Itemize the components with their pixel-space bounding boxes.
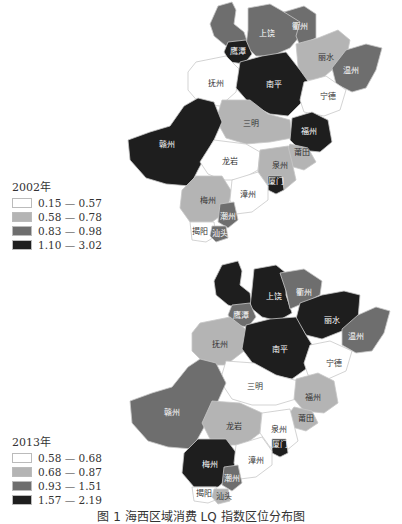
label-nanping: 南平 [272,344,288,354]
legend-row: 1.57 — 2.19 [12,493,102,507]
legend-range: 0.15 — 0.57 [38,197,102,209]
legend-swatch-class2 [12,467,32,477]
label-quzhou: 衢州 [292,21,308,31]
legend-range: 1.57 — 2.19 [38,494,102,506]
label-lishui: 丽水 [318,52,334,62]
legend-swatch-class4 [12,495,32,505]
legend-range: 0.83 — 0.98 [38,225,102,237]
label-ganzhou: 赣州 [159,139,175,149]
label-fuzhou-jx: 抚州 [212,339,228,349]
label-yingtan: 鹰潭 [233,310,249,320]
map-panel-2002: 上饶 衢州 鹰潭 丽水 温州 抚州 南平 宁德 三明 福州 赣州 龙岩 莆田 泉… [0,0,402,255]
legend-title: 2002年 [12,178,102,194]
label-meizhou: 梅州 [202,459,218,469]
label-putian: 莆田 [298,413,314,423]
label-quanzhou: 泉州 [271,424,287,434]
label-longyan: 龙岩 [226,421,242,431]
legend-swatch-class1 [12,198,32,208]
legend-2002: 2002年 0.15 — 0.57 0.58 — 0.78 0.83 — 0.9… [12,178,102,252]
legend-swatch-class3 [12,481,32,491]
legend-row: 0.58 — 0.78 [12,210,102,224]
label-shangrao: 上饶 [266,291,282,301]
label-sanming: 三明 [247,382,263,391]
label-quzhou: 衢州 [296,287,312,297]
label-nanping: 南平 [266,79,282,89]
label-shantou: 汕头 [212,228,228,238]
label-wenzhou: 温州 [348,332,364,341]
legend-row: 0.93 — 1.51 [12,479,102,493]
legend-row: 0.58 — 0.68 [12,451,102,465]
label-sanming: 三明 [243,119,259,128]
label-quanzhou: 泉州 [272,160,288,170]
label-fuzhou-fj: 福州 [301,127,317,136]
legend-row: 0.83 — 0.98 [12,224,102,238]
label-zhangzhou: 漳州 [248,455,264,465]
region-jingdezhen [214,261,252,309]
label-fuzhou-fj: 福州 [305,393,321,402]
legend-row: 0.15 — 0.57 [12,196,102,210]
label-chaozhou: 潮州 [224,473,240,483]
legend-range: 0.58 — 0.68 [38,452,102,464]
label-shantou: 汕头 [216,491,232,501]
label-xiamen: 厦门 [268,176,284,186]
label-jieyang: 揭阳 [192,226,208,236]
legend-swatch-class1 [12,453,32,463]
label-yingtan: 鹰潭 [230,46,246,56]
legend-2013: 2013年 0.58 — 0.68 0.68 — 0.87 0.93 — 1.5… [12,433,102,507]
label-chaozhou: 潮州 [220,211,236,221]
legend-range: 0.68 — 0.87 [38,466,102,478]
label-ningde: 宁德 [326,358,342,368]
legend-range: 1.10 — 3.02 [38,239,102,251]
label-wenzhou: 温州 [343,66,359,75]
legend-title: 2013年 [12,433,102,449]
map-panel-2013: 上饶 衢州 鹰潭 丽水 温州 抚州 南平 宁德 三明 福州 赣州 龙岩 莆田 泉… [0,255,402,505]
legend-row: 1.10 — 3.02 [12,238,102,252]
label-xiamen: 厦门 [272,439,288,449]
figure-caption: 图 1 海西区域消费 LQ 指数区位分布图 [0,507,402,524]
label-jieyang: 揭阳 [196,488,212,498]
legend-swatch-class2 [12,212,32,222]
label-ganzhou: 赣州 [164,407,180,417]
legend-row: 0.68 — 0.87 [12,465,102,479]
legend-range: 0.93 — 1.51 [38,480,102,492]
legend-swatch-class4 [12,240,32,250]
label-shangrao: 上饶 [259,28,275,38]
legend-range: 0.58 — 0.78 [38,211,102,223]
legend-swatch-class3 [12,226,32,236]
label-lishui: 丽水 [324,315,340,325]
label-fuzhou-jx: 抚州 [208,78,224,88]
label-putian: 莆田 [294,147,310,157]
label-meizhou: 梅州 [200,195,216,205]
label-longyan: 龙岩 [222,156,238,166]
label-zhangzhou: 漳州 [240,189,256,199]
label-ningde: 宁德 [320,91,336,101]
